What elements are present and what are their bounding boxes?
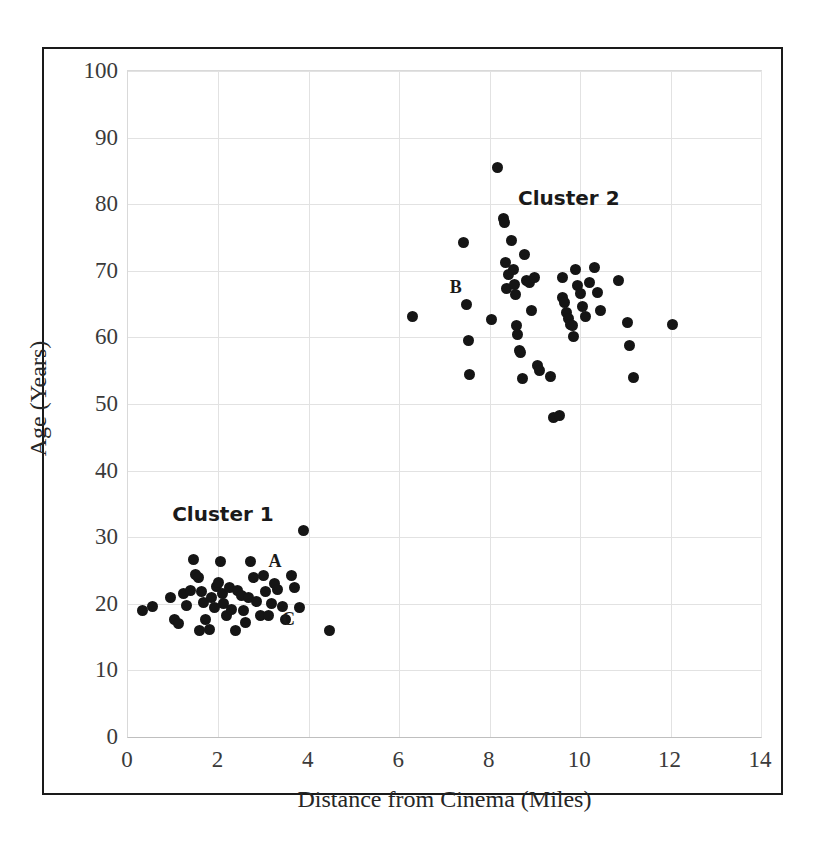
y-tick-label: 50 <box>68 392 118 415</box>
data-point <box>492 162 503 173</box>
data-point <box>165 592 176 603</box>
data-point <box>298 525 309 536</box>
x-tick-label: 6 <box>368 748 428 771</box>
data-point <box>510 289 521 300</box>
data-point <box>554 410 565 421</box>
data-point <box>230 625 241 636</box>
data-point <box>624 340 635 351</box>
data-point <box>529 272 540 283</box>
y-tick-label: 20 <box>68 591 118 614</box>
gridline-horizontal <box>128 471 761 472</box>
data-point <box>534 365 545 376</box>
x-axis-tick-labels: 02468101214 <box>127 748 762 778</box>
data-point <box>464 369 475 380</box>
gridline-vertical <box>309 71 310 737</box>
gridline-vertical <box>399 71 400 737</box>
data-point <box>173 618 184 629</box>
gridline-horizontal <box>128 537 761 538</box>
data-point <box>226 604 237 615</box>
data-point <box>245 556 256 567</box>
x-tick-label: 8 <box>459 748 519 771</box>
gridline-horizontal <box>128 670 761 671</box>
data-point <box>294 602 305 613</box>
gridline-vertical <box>671 71 672 737</box>
data-point <box>508 264 519 275</box>
data-point <box>263 610 274 621</box>
y-axis-tick-labels: 0102030405060708090100 <box>62 70 118 738</box>
data-point <box>517 373 528 384</box>
x-tick-label: 2 <box>187 748 247 771</box>
data-point <box>526 305 537 316</box>
data-point <box>622 317 633 328</box>
data-point <box>570 264 581 275</box>
gridline-horizontal <box>128 204 761 205</box>
data-point <box>181 600 192 611</box>
data-point <box>286 570 297 581</box>
y-tick-label: 10 <box>68 658 118 681</box>
data-point <box>215 556 226 567</box>
data-point <box>407 311 418 322</box>
data-point <box>545 371 556 382</box>
data-point <box>258 570 269 581</box>
data-point <box>509 279 520 290</box>
data-point <box>272 584 283 595</box>
y-axis-title: Age (Years) <box>25 269 52 529</box>
data-point <box>324 625 335 636</box>
data-point <box>238 605 249 616</box>
y-tick-label: 80 <box>68 192 118 215</box>
data-point <box>137 605 148 616</box>
data-point <box>515 347 526 358</box>
data-point <box>567 320 578 331</box>
x-tick-label: 12 <box>640 748 700 771</box>
x-tick-label: 10 <box>549 748 609 771</box>
data-point <box>568 331 579 342</box>
gridline-horizontal <box>128 138 761 139</box>
data-point <box>506 235 517 246</box>
data-point <box>499 217 510 228</box>
data-point <box>213 577 224 588</box>
x-tick-label: 0 <box>97 748 157 771</box>
data-point <box>196 586 207 597</box>
data-point <box>458 237 469 248</box>
data-point <box>575 288 586 299</box>
cluster-annotation-cluster-2: Cluster 2 <box>518 186 620 210</box>
y-tick-label: 60 <box>68 325 118 348</box>
gridline-horizontal <box>128 337 761 338</box>
plot-area: Cluster 1Cluster 2ABC <box>127 70 762 738</box>
y-tick-label: 0 <box>68 725 118 748</box>
data-point <box>512 329 523 340</box>
gridline-vertical <box>580 71 581 737</box>
data-point <box>628 372 639 383</box>
y-tick-label: 40 <box>68 458 118 481</box>
data-point <box>580 311 591 322</box>
data-point <box>185 585 196 596</box>
data-point <box>589 262 600 273</box>
data-point <box>519 249 530 260</box>
point-annotation-a: A <box>268 550 281 571</box>
y-tick-label: 70 <box>68 258 118 281</box>
scatter-plot-figure: Cluster 1Cluster 2ABC 010203040506070809… <box>0 0 823 842</box>
data-point <box>557 272 568 283</box>
gridline-vertical <box>218 71 219 737</box>
data-point <box>667 319 678 330</box>
point-annotation-b: B <box>450 277 462 298</box>
point-annotation-c: C <box>282 609 295 630</box>
x-tick-label: 14 <box>730 748 790 771</box>
data-point <box>260 586 271 597</box>
data-point <box>595 305 606 316</box>
data-point <box>206 592 217 603</box>
gridline-horizontal <box>128 404 761 405</box>
y-tick-label: 90 <box>68 125 118 148</box>
x-tick-label: 4 <box>278 748 338 771</box>
data-point <box>461 299 472 310</box>
data-point <box>592 287 603 298</box>
data-point <box>584 277 595 288</box>
x-axis-title: Distance from Cinema (Miles) <box>127 786 762 813</box>
data-point <box>486 314 497 325</box>
data-point <box>613 275 624 286</box>
data-point <box>266 598 277 609</box>
data-point <box>193 572 204 583</box>
gridline-vertical <box>490 71 491 737</box>
data-point <box>147 601 158 612</box>
cluster-annotation-cluster-1: Cluster 1 <box>172 502 274 526</box>
